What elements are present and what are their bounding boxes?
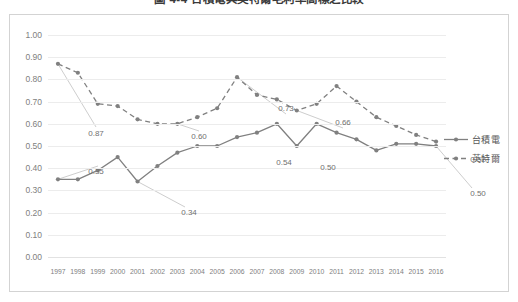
data-point xyxy=(235,135,239,139)
series-line-台積電 xyxy=(58,124,436,182)
chart-panel: 0.000.100.200.300.400.500.600.700.800.90… xyxy=(9,14,509,292)
data-point xyxy=(76,71,80,75)
data-point xyxy=(295,108,299,112)
data-point xyxy=(116,155,120,159)
data-point-label: 0.50 xyxy=(320,163,336,172)
data-point xyxy=(56,177,60,181)
data-point-label: 0.73 xyxy=(278,104,294,113)
y-axis-tick-label: 0.20 xyxy=(25,208,42,218)
data-point xyxy=(135,117,139,121)
x-axis-tick-label: 2016 xyxy=(428,268,443,275)
gridline xyxy=(48,168,446,169)
chart-page: 圖 4-4 台積電與英特爾毛利率高標之比較 0.000.100.200.300.… xyxy=(0,0,518,302)
y-axis-tick-label: 0.40 xyxy=(25,163,42,173)
legend-label: 台積電 xyxy=(472,133,501,146)
gridline xyxy=(48,190,446,191)
x-axis-tick-label: 2008 xyxy=(269,268,284,275)
x-axis-tick-label: 2010 xyxy=(309,268,324,275)
data-point xyxy=(374,148,378,152)
data-point xyxy=(135,179,139,183)
x-axis-tick-label: 2015 xyxy=(409,268,424,275)
chart-legend: 台積電英特爾 xyxy=(443,133,501,165)
data-point xyxy=(334,84,338,88)
data-point-label: 0.60 xyxy=(191,132,207,141)
gridline xyxy=(48,257,446,258)
legend-label: 英特爾 xyxy=(472,152,501,165)
gridline xyxy=(48,57,446,58)
y-axis-tick-label: 0.00 xyxy=(25,252,42,262)
data-point xyxy=(374,115,378,119)
data-point xyxy=(56,62,60,66)
x-axis-tick-label: 2005 xyxy=(210,268,225,275)
x-axis-tick-label: 2002 xyxy=(150,268,165,275)
data-point-label: 0.34 xyxy=(181,208,197,217)
series-line-英特爾 xyxy=(58,64,436,142)
data-point-label: 0.66 xyxy=(335,118,351,127)
gridline xyxy=(48,35,446,36)
chart-title: 圖 4-4 台積電與英特爾毛利率高標之比較 xyxy=(0,0,518,8)
data-point-label: 0.87 xyxy=(88,129,104,138)
x-axis-tick-label: 2014 xyxy=(389,268,404,275)
data-point xyxy=(215,106,219,110)
data-point xyxy=(434,139,438,143)
gridline xyxy=(48,235,446,236)
data-point xyxy=(76,177,80,181)
data-point xyxy=(354,137,358,141)
data-point xyxy=(116,104,120,108)
legend-item-台積電[interactable]: 台積電 xyxy=(443,133,501,146)
x-axis-tick-label: 2011 xyxy=(329,268,344,275)
y-axis-tick-label: 0.80 xyxy=(25,74,42,84)
gridline xyxy=(48,146,446,147)
legend-swatch-dashed xyxy=(443,154,469,163)
data-point xyxy=(175,151,179,155)
x-axis-tick-label: 2009 xyxy=(289,268,304,275)
y-axis-tick-label: 0.60 xyxy=(25,119,42,129)
data-point-label: 0.50 xyxy=(470,189,486,198)
y-axis-tick-label: 0.30 xyxy=(25,185,42,195)
data-point xyxy=(195,115,199,119)
y-axis-tick-label: 0.90 xyxy=(25,52,42,62)
data-point xyxy=(334,131,338,135)
legend-item-英特爾[interactable]: 英特爾 xyxy=(443,152,501,165)
x-axis-tick-label: 2004 xyxy=(190,268,205,275)
x-axis-tick-label: 2013 xyxy=(369,268,384,275)
y-axis-tick-label: 1.00 xyxy=(25,30,42,40)
data-point xyxy=(255,93,259,97)
x-axis-tick-label: 1997 xyxy=(50,268,65,275)
x-axis-tick-label: 2001 xyxy=(130,268,145,275)
x-axis-tick-label: 2006 xyxy=(229,268,244,275)
x-axis-tick-label: 1999 xyxy=(90,268,105,275)
x-axis-tick-label: 2003 xyxy=(170,268,185,275)
gridline xyxy=(48,124,446,125)
label-leader-line xyxy=(138,182,185,207)
gridline xyxy=(48,102,446,103)
data-point xyxy=(414,133,418,137)
gridline xyxy=(48,213,446,214)
x-axis-tick-label: 2000 xyxy=(110,268,125,275)
label-leader-line xyxy=(177,124,199,131)
y-axis-tick-label: 0.50 xyxy=(25,141,42,151)
x-axis-tick-label: 2012 xyxy=(349,268,364,275)
x-axis-tick-label: 2007 xyxy=(249,268,264,275)
x-axis-tick-label: 1998 xyxy=(70,268,85,275)
y-axis-tick-label: 0.10 xyxy=(25,230,42,240)
y-axis-tick-label: 0.70 xyxy=(25,97,42,107)
plot-area: 0.000.100.200.300.400.500.600.700.800.90… xyxy=(48,35,446,257)
legend-swatch-solid xyxy=(443,135,469,144)
data-point-label: 0.54 xyxy=(276,158,292,167)
data-point-label: 0.35 xyxy=(88,167,104,176)
data-point xyxy=(255,131,259,135)
gridline xyxy=(48,79,446,80)
